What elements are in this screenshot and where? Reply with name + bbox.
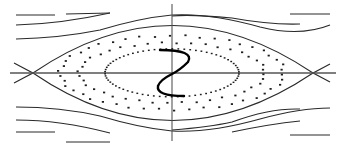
middle-dot [166, 102, 168, 104]
outer-dot [127, 107, 129, 109]
outer-dot [270, 88, 272, 90]
streamlines [16, 13, 330, 142]
middle-dot [217, 46, 219, 48]
inner-dot [210, 92, 212, 93]
inner-dot [154, 49, 156, 50]
outer-dot [276, 59, 278, 61]
inner-dot [220, 56, 222, 57]
outer-dot [169, 35, 171, 37]
inner-dot [183, 49, 185, 50]
middle-dot [221, 97, 223, 99]
inner-dot [177, 48, 179, 49]
middle-dot [81, 66, 83, 68]
middle-dot [209, 99, 211, 101]
inner-dot [127, 54, 129, 55]
middle-dot [103, 92, 105, 94]
inner-dot [195, 50, 197, 51]
inner-dot [227, 59, 229, 60]
outer-dot [59, 75, 61, 77]
inner-dot [104, 73, 106, 74]
inner-dot [137, 51, 139, 52]
outer-dot [251, 46, 253, 48]
middle-dot [89, 57, 91, 59]
outer-dot [72, 90, 74, 92]
inner-dot [108, 65, 110, 66]
inner-dot [235, 80, 237, 81]
middle-dot [262, 64, 264, 66]
outer-dot [57, 70, 59, 72]
inner-dot [223, 87, 225, 88]
middle-dot [229, 49, 231, 51]
outer-dot [154, 36, 156, 38]
inner-dot [112, 83, 114, 84]
inner-dot [159, 96, 161, 97]
middle-dot [205, 43, 207, 45]
outer-dot [64, 85, 66, 87]
outer-dot [65, 60, 67, 62]
inner-dot [153, 95, 155, 96]
outer-dot [112, 41, 114, 43]
middle-dot [248, 56, 250, 58]
inner-dot [119, 87, 121, 88]
inner-dot [132, 53, 134, 54]
streamline [66, 13, 110, 14]
inner-dot [230, 84, 232, 85]
inner-dot [224, 57, 226, 58]
middle-dot [262, 78, 264, 80]
outer-dot [173, 110, 175, 112]
streamline [232, 121, 300, 132]
outer-dot [89, 98, 91, 100]
inner-dot [147, 95, 149, 96]
inner-dot [142, 50, 144, 51]
inner-dot [227, 85, 229, 86]
outer-dot [124, 38, 126, 40]
middle-dot [125, 98, 127, 100]
inner-dot [219, 89, 221, 90]
inner-dot [201, 51, 203, 52]
outer-dot [203, 107, 205, 109]
inner-dot [127, 90, 129, 91]
outer-dot [281, 69, 283, 71]
outer-dot [116, 103, 118, 105]
middle-dot [138, 99, 140, 101]
outer-dot [263, 50, 265, 52]
middle-dot [78, 75, 80, 77]
middle-dot [84, 61, 86, 63]
diagram-canvas [0, 0, 344, 146]
outer-dot [158, 108, 160, 110]
middle-dot [196, 101, 198, 103]
inner-dot [233, 63, 235, 64]
streamline [232, 18, 300, 24]
inner-dot [235, 65, 237, 66]
middle-dot [85, 84, 87, 86]
inner-dot [110, 63, 112, 64]
streamline [172, 15, 232, 18]
inner-dot [136, 93, 138, 94]
middle-dot [100, 54, 102, 56]
inner-dot [109, 81, 111, 82]
outer-dot [69, 55, 71, 57]
inner-dot [107, 79, 109, 80]
middle-dot [241, 51, 243, 53]
outer-dot [268, 55, 270, 57]
outer-dot [138, 36, 140, 38]
inner-dot [123, 55, 125, 56]
outer-dot [264, 93, 266, 95]
inner-dot [106, 77, 108, 78]
inner-dot [230, 61, 232, 62]
inner-dot [148, 50, 150, 51]
middle-dot [83, 80, 85, 82]
inner-dot [115, 85, 117, 86]
outer-dot [228, 39, 230, 41]
outer-dot [199, 37, 201, 39]
inner-dot [142, 94, 144, 95]
inner-dot [105, 69, 107, 70]
inner-dot [211, 53, 213, 54]
inner-dot [215, 90, 217, 91]
middle-dot [77, 70, 79, 72]
middle-dot [181, 101, 183, 103]
inner-dot [236, 78, 238, 79]
outer-dot [63, 65, 65, 67]
middle-dot [112, 96, 114, 98]
middle-dot [250, 87, 252, 89]
